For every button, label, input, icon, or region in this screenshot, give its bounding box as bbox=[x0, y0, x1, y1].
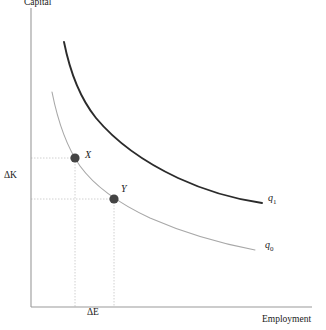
point-label-y: Y bbox=[121, 184, 127, 194]
curve-label-q0-sub: 0 bbox=[270, 245, 274, 253]
y-axis-title: Capital bbox=[24, 0, 51, 8]
delta-k-label: ΔK bbox=[4, 171, 17, 181]
curve-label-q1-sub: 1 bbox=[273, 198, 277, 206]
isoquant-curve-q1 bbox=[64, 42, 262, 203]
data-point-x bbox=[70, 153, 79, 162]
data-point-y bbox=[109, 194, 118, 203]
curve-label-q0: q0 bbox=[265, 240, 274, 253]
isoquant-figure: Capital Employment ΔK ΔE X Y q1 q0 bbox=[0, 0, 326, 330]
isoquant-curve-q0 bbox=[52, 92, 255, 250]
point-label-x: X bbox=[85, 150, 91, 160]
delta-e-label: ΔE bbox=[87, 308, 99, 318]
guide-lines bbox=[31, 158, 114, 307]
x-axis-title: Employment bbox=[262, 315, 311, 325]
curve-label-q1: q1 bbox=[268, 193, 277, 206]
plot-canvas bbox=[0, 0, 326, 330]
